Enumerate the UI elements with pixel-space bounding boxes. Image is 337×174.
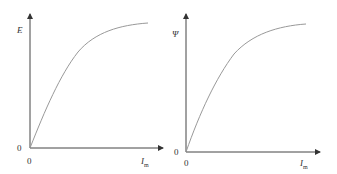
- right-plot: [186, 14, 320, 152]
- right-origin-x: 0: [184, 159, 189, 168]
- left-plot: [30, 14, 163, 148]
- left-x-label: Im: [141, 157, 149, 168]
- left-y-label: E: [17, 26, 23, 35]
- left-x-label-sub: m: [144, 162, 149, 168]
- left-curve: [30, 23, 148, 148]
- left-origin-y: 0: [17, 144, 22, 153]
- right-x-label: Im: [300, 159, 308, 170]
- right-y-label: Ψ: [172, 30, 178, 39]
- right-curve: [186, 24, 306, 152]
- right-origin-y: 0: [174, 148, 179, 157]
- left-origin-x: 0: [27, 157, 32, 166]
- diagram-canvas: [0, 0, 337, 174]
- right-x-label-sub: m: [303, 164, 308, 170]
